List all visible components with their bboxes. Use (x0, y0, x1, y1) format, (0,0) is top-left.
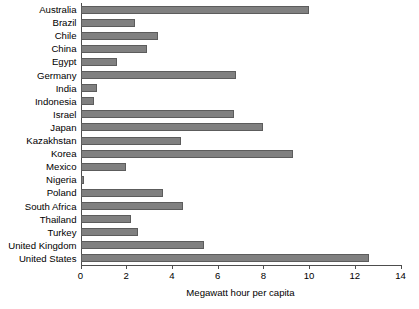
category-label: Thailand (40, 213, 77, 226)
category-label: South Africa (25, 200, 77, 213)
bar-row: Japan (81, 121, 401, 134)
x-tick-label: 12 (335, 270, 375, 282)
x-tick-label: 4 (152, 270, 192, 282)
bar-row: Kazakhstan (81, 134, 401, 147)
category-label: Nigeria (46, 173, 76, 186)
bar (81, 110, 234, 118)
bar (81, 6, 310, 14)
category-label: Germany (37, 69, 76, 82)
bar (81, 254, 369, 262)
plot-area: AustraliaBrazilChileChinaEgyptGermanyInd… (81, 3, 401, 265)
bar-chart: AustraliaBrazilChileChinaEgyptGermanyInd… (0, 0, 419, 309)
x-axis-title: Megawatt hour per capita (81, 287, 401, 298)
bar-row: South Africa (81, 200, 401, 213)
x-tick (218, 265, 219, 269)
x-tick (263, 265, 264, 269)
x-tick (309, 265, 310, 269)
bar (81, 202, 184, 210)
category-label: Chile (55, 29, 77, 42)
bar (81, 150, 294, 158)
bar (81, 163, 127, 171)
category-label: Israel (53, 108, 76, 121)
category-label: Mexico (46, 160, 76, 173)
category-label: Australia (39, 3, 76, 16)
category-label: Brazil (53, 16, 77, 29)
bar-row: Nigeria (81, 173, 401, 186)
x-tick (81, 265, 82, 269)
bar (81, 71, 236, 79)
bar (81, 189, 163, 197)
bar-row: Turkey (81, 226, 401, 239)
bar-row: Chile (81, 29, 401, 42)
bar-row: Egypt (81, 55, 401, 68)
bar (81, 176, 84, 184)
category-label: Indonesia (35, 95, 77, 108)
category-label: Kazakhstan (26, 134, 76, 147)
bar (81, 123, 264, 131)
bar-row: Poland (81, 186, 401, 199)
bar (81, 84, 97, 92)
bar (81, 32, 159, 40)
x-tick-label: 8 (243, 270, 283, 282)
x-tick-label: 2 (106, 270, 146, 282)
category-label: China (51, 42, 76, 55)
bar (81, 97, 95, 105)
category-label: Japan (50, 121, 76, 134)
x-tick-label: 10 (289, 270, 329, 282)
bar-row: Australia (81, 3, 401, 16)
x-tick (172, 265, 173, 269)
bar-row: Thailand (81, 213, 401, 226)
x-tick (355, 265, 356, 269)
x-tick (401, 265, 402, 269)
bar (81, 215, 131, 223)
x-tick-label: 6 (198, 270, 238, 282)
category-label: Turkey (48, 226, 77, 239)
category-label: United States (19, 252, 77, 265)
bar (81, 45, 147, 53)
category-label: Korea (51, 147, 77, 160)
bar-row: Brazil (81, 16, 401, 29)
category-label: Egypt (52, 55, 77, 68)
bar-row: India (81, 82, 401, 95)
bar-row: Korea (81, 147, 401, 160)
bar-row: United States (81, 252, 401, 265)
x-tick-label: 0 (61, 270, 101, 282)
bar (81, 137, 182, 145)
bar-row: Indonesia (81, 95, 401, 108)
bar-row: Israel (81, 108, 401, 121)
category-label: Poland (47, 186, 77, 199)
x-tick (126, 265, 127, 269)
x-tick-label: 14 (381, 270, 419, 282)
bar (81, 241, 204, 249)
bar-row: United Kingdom (81, 239, 401, 252)
x-axis-line (81, 265, 401, 266)
bar (81, 58, 118, 66)
bar-row: China (81, 42, 401, 55)
bar (81, 228, 138, 236)
bar (81, 19, 136, 27)
bar-row: Mexico (81, 160, 401, 173)
bar-row: Germany (81, 69, 401, 82)
category-label: United Kingdom (8, 239, 76, 252)
category-label: India (56, 82, 77, 95)
